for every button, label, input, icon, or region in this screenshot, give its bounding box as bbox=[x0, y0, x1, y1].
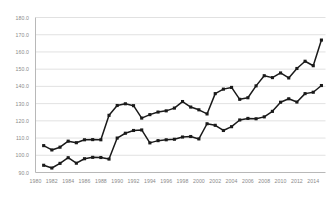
data-point-marker bbox=[124, 132, 127, 135]
data-point-marker bbox=[140, 128, 143, 131]
data-point-marker bbox=[148, 141, 151, 144]
data-point-marker bbox=[156, 139, 159, 142]
data-point-marker bbox=[173, 107, 176, 110]
data-point-marker bbox=[279, 101, 282, 104]
data-point-marker bbox=[140, 117, 143, 120]
data-point-marker bbox=[58, 146, 61, 149]
data-point-marker bbox=[50, 148, 53, 151]
data-point-marker bbox=[214, 124, 217, 127]
data-point-marker bbox=[75, 162, 78, 165]
data-point-marker bbox=[67, 156, 70, 159]
data-point-marker bbox=[181, 100, 184, 103]
data-point-marker bbox=[320, 84, 323, 87]
chart-plot-area bbox=[0, 0, 333, 200]
series-line-upper-series bbox=[44, 40, 322, 150]
data-point-marker bbox=[189, 135, 192, 138]
data-point-marker bbox=[148, 113, 151, 116]
data-point-marker bbox=[91, 138, 94, 141]
data-point-marker bbox=[287, 76, 290, 79]
data-point-marker bbox=[165, 138, 168, 141]
data-point-marker bbox=[67, 140, 70, 143]
data-point-marker bbox=[156, 111, 159, 114]
data-point-marker bbox=[99, 156, 102, 159]
series-markers bbox=[42, 39, 323, 170]
data-point-marker bbox=[107, 114, 110, 117]
y-tick-label: 100.0 bbox=[3, 152, 29, 158]
x-tick-label: 2014 bbox=[302, 178, 324, 184]
data-point-marker bbox=[173, 138, 176, 141]
data-point-marker bbox=[132, 129, 135, 132]
axis-lines bbox=[36, 18, 326, 173]
gridlines bbox=[36, 18, 326, 156]
data-point-marker bbox=[287, 97, 290, 100]
data-point-marker bbox=[197, 108, 200, 111]
y-tick-label: 140.0 bbox=[3, 83, 29, 89]
data-point-marker bbox=[230, 86, 233, 89]
data-point-marker bbox=[312, 91, 315, 94]
data-point-marker bbox=[50, 166, 53, 169]
y-tick-label: 110.0 bbox=[3, 135, 29, 141]
data-point-marker bbox=[42, 144, 45, 147]
data-point-marker bbox=[181, 135, 184, 138]
data-point-marker bbox=[116, 104, 119, 107]
data-point-marker bbox=[304, 60, 307, 63]
line-chart: 90.0100.0110.0120.0130.0140.0150.0160.01… bbox=[0, 0, 333, 200]
data-point-marker bbox=[206, 122, 209, 125]
series-lines bbox=[44, 40, 322, 168]
data-point-marker bbox=[42, 164, 45, 167]
data-point-marker bbox=[271, 76, 274, 79]
data-point-marker bbox=[75, 141, 78, 144]
data-point-marker bbox=[238, 118, 241, 121]
y-tick-label: 130.0 bbox=[3, 101, 29, 107]
data-point-marker bbox=[230, 125, 233, 128]
y-tick-label: 90.0 bbox=[3, 170, 29, 176]
data-point-marker bbox=[279, 71, 282, 74]
data-point-marker bbox=[165, 109, 168, 112]
data-point-marker bbox=[83, 138, 86, 141]
data-point-marker bbox=[238, 98, 241, 101]
y-tick-label: 160.0 bbox=[3, 49, 29, 55]
data-point-marker bbox=[214, 92, 217, 95]
data-point-marker bbox=[246, 117, 249, 120]
data-point-marker bbox=[271, 110, 274, 113]
data-point-marker bbox=[263, 115, 266, 118]
data-point-marker bbox=[99, 138, 102, 141]
data-point-marker bbox=[263, 74, 266, 77]
data-point-marker bbox=[189, 106, 192, 109]
data-point-marker bbox=[116, 137, 119, 140]
data-point-marker bbox=[91, 156, 94, 159]
data-point-marker bbox=[107, 158, 110, 161]
data-point-marker bbox=[255, 117, 258, 120]
data-point-marker bbox=[83, 157, 86, 160]
data-point-marker bbox=[304, 92, 307, 95]
data-point-marker bbox=[320, 39, 323, 42]
data-point-marker bbox=[312, 64, 315, 67]
y-tick-label: 170.0 bbox=[3, 32, 29, 38]
data-point-marker bbox=[132, 104, 135, 107]
y-tick-label: 120.0 bbox=[3, 118, 29, 124]
data-point-marker bbox=[222, 129, 225, 132]
data-point-marker bbox=[124, 102, 127, 105]
data-point-marker bbox=[295, 67, 298, 70]
data-point-marker bbox=[206, 112, 209, 115]
y-tick-label: 180.0 bbox=[3, 15, 29, 21]
data-point-marker bbox=[255, 84, 258, 87]
data-point-marker bbox=[222, 88, 225, 91]
data-point-marker bbox=[58, 162, 61, 165]
y-tick-label: 150.0 bbox=[3, 66, 29, 72]
data-point-marker bbox=[197, 137, 200, 140]
data-point-marker bbox=[295, 101, 298, 104]
data-point-marker bbox=[246, 96, 249, 99]
